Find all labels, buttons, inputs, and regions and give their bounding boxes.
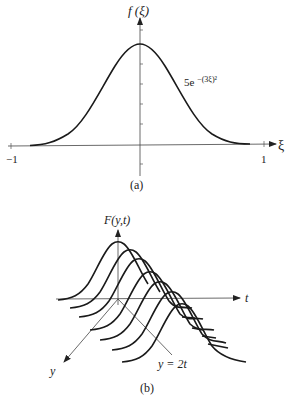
wave-profile-3 (79, 259, 192, 317)
tick-label-plus-1: 1 (261, 153, 267, 165)
panel-b: F(y,t) t y y = 2t (b) (0, 200, 289, 401)
caption-b: (b) (140, 381, 154, 395)
tail-2 (182, 317, 195, 318)
caption-a: (a) (130, 178, 143, 192)
line-label: y = 2t (157, 357, 187, 371)
xi-axis-label: ξ (278, 138, 284, 153)
tail-1 (180, 307, 190, 308)
panel-a: f (ξ) ξ −1 1 5e −(3ξ)² (a) (0, 0, 289, 200)
t-axis (56, 298, 240, 299)
curve-label-base: 5e (184, 76, 195, 88)
tail-4 (202, 336, 216, 338)
xi-axis (8, 144, 276, 146)
gaussian-plot: f (ξ) ξ −1 1 5e −(3ξ)² (a) (0, 0, 289, 200)
tail-3 (192, 328, 203, 330)
wave-profile-5 (100, 282, 214, 340)
tick-label-minus-1: −1 (6, 153, 18, 165)
traveling-wave-plot: F(y,t) t y y = 2t (b) (0, 200, 289, 401)
curve-label-exponent: −(3ξ)² (197, 75, 217, 84)
y-axis-label: y (49, 364, 56, 378)
wave-profiles (58, 242, 246, 362)
wave-profile-2 (70, 250, 160, 308)
f-axis-ticks (140, 30, 143, 164)
t-axis-label: t (245, 291, 249, 305)
tail-5 (208, 344, 228, 348)
f-axis-label: f (ξ) (128, 3, 149, 18)
curve-label: 5e −(3ξ)² (184, 75, 218, 88)
F-axis-label: F(y,t) (103, 213, 130, 227)
